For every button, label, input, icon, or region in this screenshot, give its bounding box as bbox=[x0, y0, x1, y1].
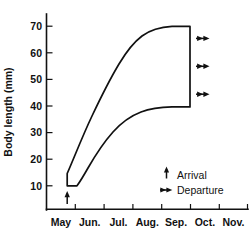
departure-1-head-outer bbox=[203, 36, 209, 41]
y-tick-label-60: 60 bbox=[30, 47, 42, 59]
x-tick-label-jul: Jul. bbox=[109, 216, 127, 228]
departure-marker-3 bbox=[196, 92, 210, 97]
departure-3-head-outer bbox=[203, 92, 209, 97]
chart-figure: 70 60 50 40 30 20 10 Body length (mm) Ma… bbox=[0, 0, 250, 245]
legend-departure-head-outer bbox=[166, 187, 172, 192]
x-tick-label-aug: Aug. bbox=[136, 216, 159, 228]
arrow-right-double-icon bbox=[160, 187, 172, 192]
departure-marker-1 bbox=[196, 36, 210, 41]
legend-item-departure: Departure bbox=[160, 184, 224, 196]
y-tick-label-40: 40 bbox=[30, 100, 42, 112]
y-tick-label-10: 10 bbox=[30, 180, 42, 192]
departure-3-head-inner bbox=[197, 92, 203, 97]
y-tick-label-50: 50 bbox=[30, 73, 42, 85]
x-tick-label-nov: Nov. bbox=[222, 216, 244, 228]
y-axis-ticks bbox=[47, 26, 53, 186]
legend-departure-head-inner bbox=[160, 187, 166, 192]
x-tick-label-oct: Oct. bbox=[195, 216, 216, 228]
departure-marker-2 bbox=[196, 64, 210, 69]
arrival-arrow-head bbox=[65, 191, 70, 197]
arrival-marker bbox=[65, 191, 70, 204]
y-axis-title: Body length (mm) bbox=[2, 67, 14, 156]
legend-label-departure: Departure bbox=[177, 184, 224, 196]
y-tick-label-70: 70 bbox=[30, 20, 42, 32]
legend-arrival-head bbox=[164, 167, 169, 173]
chart-legend: Arrival Departure bbox=[160, 167, 224, 196]
departure-2-head-inner bbox=[197, 64, 203, 69]
arrow-up-icon bbox=[164, 167, 169, 179]
legend-label-arrival: Arrival bbox=[177, 169, 207, 181]
chart-plot-area: 70 60 50 40 30 20 10 Body length (mm) Ma… bbox=[0, 0, 250, 245]
departure-2-head-outer bbox=[203, 64, 209, 69]
legend-item-arrival: Arrival bbox=[164, 167, 207, 181]
x-tick-label-jun: Jun. bbox=[79, 216, 101, 228]
x-tick-label-may: May bbox=[51, 216, 72, 228]
y-tick-label-20: 20 bbox=[30, 153, 42, 165]
x-tick-label-sep: Sep. bbox=[165, 216, 187, 228]
y-tick-label-30: 30 bbox=[30, 126, 42, 138]
body-length-range-band bbox=[67, 26, 190, 185]
departure-1-head-inner bbox=[197, 36, 203, 41]
